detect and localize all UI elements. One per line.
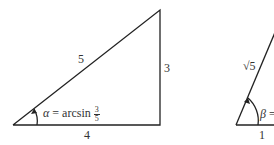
triangle-2-adjacent-label: 1	[259, 129, 265, 141]
alpha-fraction: 35	[94, 106, 100, 123]
triangle-1-adjacent-label: 4	[84, 129, 90, 141]
triangle-1-hypotenuse-label: 5	[78, 53, 84, 65]
diagram-canvas	[0, 0, 274, 145]
beta-angle-label: β =	[260, 108, 274, 120]
alpha-equals: = arcsin	[49, 106, 93, 120]
angle-beta-arc-icon	[248, 98, 258, 125]
fraction-denominator: 5	[94, 115, 100, 123]
beta-equals: =	[266, 107, 274, 121]
triangle-1-opposite-label: 3	[164, 62, 170, 74]
alpha-angle-label: α = arcsin 35	[43, 106, 100, 123]
triangle-2-hypotenuse-label: √5	[243, 60, 256, 72]
